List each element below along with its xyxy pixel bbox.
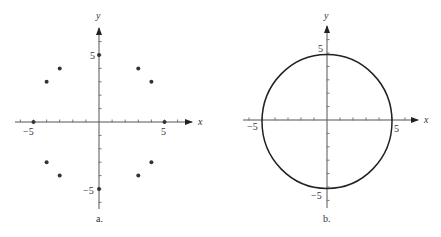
data-point [149, 160, 153, 164]
data-point [58, 174, 62, 178]
x-tick-label-5: 5 [161, 126, 166, 137]
data-point [136, 66, 140, 70]
x-axis-label: x [197, 116, 203, 127]
y-tick-label-5: 5 [318, 43, 323, 54]
data-point [97, 187, 101, 191]
data-point [163, 120, 167, 124]
data-point [136, 174, 140, 178]
panel-a: x y −5 5 5 −5 a. [15, 10, 203, 224]
data-point [32, 120, 36, 124]
data-point [58, 66, 62, 70]
x-tick-label-neg5: −5 [23, 126, 34, 137]
y-tick-label-5: 5 [90, 50, 95, 61]
y-axis-label: y [323, 10, 329, 21]
panel-caption-a: a. [96, 213, 103, 224]
data-point [97, 53, 101, 57]
panel-b: x y −5 5 5 −5 b. [243, 10, 429, 224]
data-point [45, 80, 49, 84]
x-tick-label-5: 5 [394, 123, 399, 134]
data-point [149, 80, 153, 84]
data-point [45, 160, 49, 164]
y-axis-label: y [95, 10, 101, 21]
x-axis-label: x [423, 114, 429, 125]
y-tick-label-neg5: −5 [83, 185, 94, 196]
figure: x y −5 5 5 −5 a. x y −5 5 5 −5 b. [0, 0, 441, 237]
panel-caption-b: b. [323, 213, 331, 224]
y-tick-label-neg5: −5 [311, 190, 322, 201]
x-tick-label-neg5: −5 [247, 121, 258, 132]
